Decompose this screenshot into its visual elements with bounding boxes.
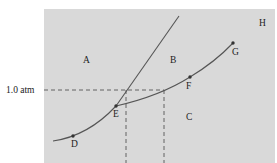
region-a-label: A bbox=[83, 55, 90, 65]
region-b-label: B bbox=[170, 55, 176, 65]
diagram-background bbox=[44, 9, 275, 163]
point-f-label: F bbox=[186, 81, 191, 91]
point-d-label: D bbox=[71, 139, 78, 149]
pressure-label: 1.0 atm bbox=[6, 85, 35, 95]
region-c-label: C bbox=[186, 112, 192, 122]
point-g-marker bbox=[231, 41, 234, 44]
point-g-label: G bbox=[232, 47, 239, 57]
point-e-marker bbox=[114, 104, 117, 107]
point-e-label: E bbox=[113, 109, 119, 119]
region-h-label: H bbox=[259, 18, 266, 28]
phase-diagram: 1.0 atm A B C H D E F G bbox=[0, 0, 277, 163]
point-f-marker bbox=[188, 75, 191, 78]
point-d-marker bbox=[71, 134, 74, 137]
